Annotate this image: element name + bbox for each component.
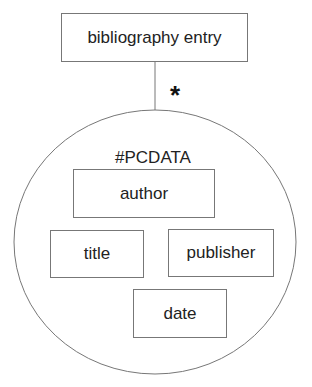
node-date: date (133, 289, 227, 338)
group-label-pcdata: #PCDATA (0, 148, 306, 168)
node-title: title (50, 230, 144, 278)
node-date-label: date (163, 304, 196, 324)
node-publisher-label: publisher (187, 243, 256, 263)
cardinality-asterisk: * (170, 80, 180, 111)
node-title-label: title (84, 244, 110, 264)
root-node-bibliography-entry: bibliography entry (61, 13, 248, 62)
node-author: author (73, 169, 215, 218)
node-author-label: author (120, 184, 168, 204)
node-publisher: publisher (168, 229, 274, 277)
root-node-label: bibliography entry (87, 28, 221, 48)
